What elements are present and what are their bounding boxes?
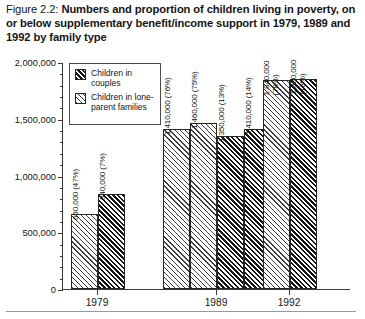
y-axis-tick	[58, 120, 63, 121]
y-axis-label: 1,000,000	[15, 172, 56, 182]
legend-swatch-couples-icon	[75, 69, 86, 80]
bar-1989-light-3	[190, 123, 217, 289]
divider	[6, 311, 356, 312]
y-axis-minor-tick	[60, 165, 63, 166]
y-axis-minor-tick	[60, 267, 63, 268]
bar-1979-dark-1	[98, 194, 125, 289]
figure-number: Figure 2.2:	[6, 3, 58, 15]
y-axis-label: 500,000	[22, 228, 56, 238]
x-axis-tick	[216, 290, 217, 295]
bar-value-label: 840,000 (7%)	[98, 153, 107, 200]
x-axis-tick	[97, 290, 98, 295]
y-axis-tick	[58, 63, 63, 64]
y-axis-minor-tick	[60, 86, 63, 87]
y-axis-minor-tick	[60, 211, 63, 212]
y-axis-minor-tick	[60, 108, 63, 109]
figure-caption: Figure 2.2: Numbers and proportion of ch…	[6, 2, 358, 45]
y-axis-minor-tick	[60, 279, 63, 280]
legend-label-lone-parent: Children in lone-parent families	[91, 93, 156, 112]
page-title: Numbers and proportion of children livin…	[6, 3, 355, 43]
bar-value-label: 1,850,000 (18%)	[289, 60, 307, 95]
x-axis-label-1989: 1989	[205, 297, 228, 308]
x-axis-label-1992: 1992	[278, 297, 301, 308]
bar-value-label: 1,410,000 (76%)	[163, 77, 172, 135]
y-axis-minor-tick	[60, 131, 63, 132]
chart-plot-area: 0500,0001,000,0001,500,0002,000,000 660,…	[62, 63, 350, 290]
y-axis-minor-tick	[60, 256, 63, 257]
y-axis-minor-tick	[60, 74, 63, 75]
bar-value-label: 660,000 (47%)	[71, 169, 80, 220]
bar-value-label: 1,410,000 (14%)	[244, 77, 253, 135]
y-axis-minor-tick	[60, 222, 63, 223]
y-axis-minor-tick	[60, 154, 63, 155]
y-axis-label: 1,500,000	[15, 115, 56, 125]
y-axis-minor-tick	[60, 245, 63, 246]
y-axis-minor-tick	[60, 97, 63, 98]
x-axis-label-1979: 1979	[86, 297, 109, 308]
bar-1989-dark-4	[217, 136, 244, 289]
y-axis-minor-tick	[60, 188, 63, 189]
bar-value-label: 1,460,000 (75%)	[190, 72, 199, 130]
y-axis-minor-tick	[60, 199, 63, 200]
legend-item: Children in couples	[75, 69, 156, 88]
y-axis-tick	[58, 233, 63, 234]
legend-label-couples: Children in couples	[91, 69, 156, 88]
y-axis-label: 2,000,000	[15, 58, 56, 68]
x-axis-tick	[289, 290, 290, 295]
x-axis: 197919891992	[62, 290, 350, 318]
y-axis-tick	[58, 177, 63, 178]
y-axis-label: 0	[51, 285, 56, 295]
bar-value-label: 1,350,000 (13%)	[217, 84, 226, 142]
bar-value-label: 1,840,000 (78%)	[262, 61, 280, 96]
y-axis-minor-tick	[60, 142, 63, 143]
bar-1989-light-2	[163, 129, 190, 289]
bar-1992-light-6	[263, 80, 290, 289]
bar-1992-dark-7	[290, 79, 317, 289]
legend-swatch-lone-parent-icon	[75, 93, 86, 104]
legend-item: Children in lone-parent families	[75, 93, 156, 112]
bar-1979-light-0	[71, 214, 98, 289]
chart-legend: Children in couples Children in lone-par…	[69, 63, 161, 125]
